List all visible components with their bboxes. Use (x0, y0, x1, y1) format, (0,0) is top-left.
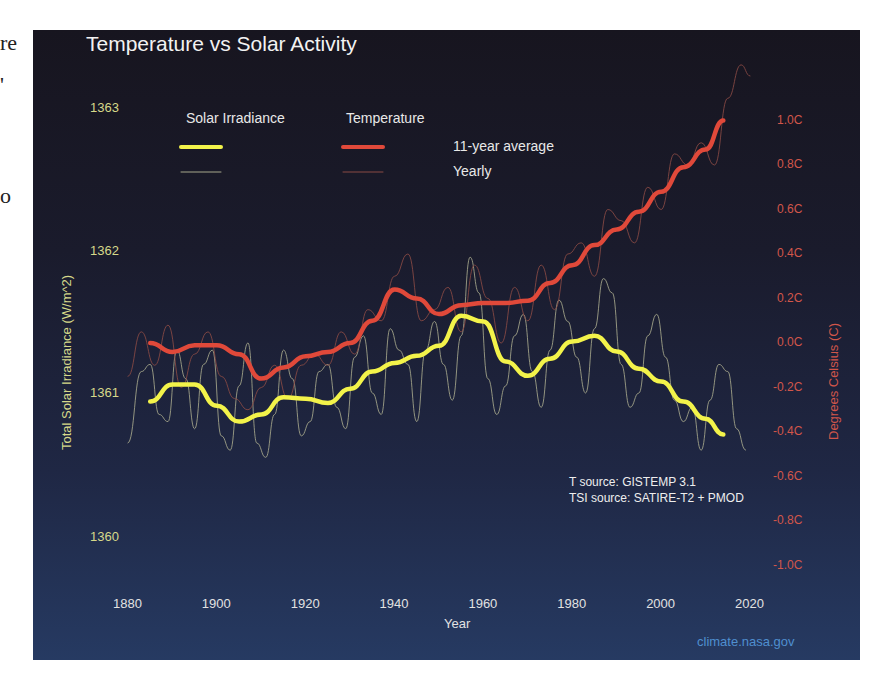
legend-row-average: 11-year average (453, 138, 554, 154)
x-tick: 1980 (557, 596, 586, 611)
y-left-tick: 1362 (90, 243, 119, 258)
x-tick: 1940 (380, 596, 409, 611)
chart-plot-area (33, 30, 860, 660)
x-tick: 1920 (291, 596, 320, 611)
x-tick: 1960 (468, 596, 497, 611)
y-right-tick: 0.0C (777, 335, 802, 349)
text-fragment: ' (0, 72, 4, 98)
y-right-axis-label: Degrees Celsius (C) (826, 323, 841, 440)
y-right-tick: 0.8C (777, 157, 802, 171)
y-right-tick: -0.6C (773, 469, 802, 483)
text-fragment: o (0, 183, 11, 209)
legend-row-yearly: Yearly (453, 163, 491, 179)
y-right-tick: -0.4C (773, 424, 802, 438)
temperature-source: T source: GISTEMP 3.1 (569, 474, 744, 490)
y-right-tick: -0.2C (773, 380, 802, 394)
y-right-tick: 0.4C (777, 246, 802, 260)
y-right-tick: 0.6C (777, 202, 802, 216)
solar-average-line (150, 316, 723, 435)
y-left-tick: 1363 (90, 100, 119, 115)
y-right-tick: -0.8C (773, 513, 802, 527)
y-right-tick: 1.0C (777, 113, 802, 127)
credit-link[interactable]: climate.nasa.gov (697, 634, 795, 649)
y-right-tick: -1.0C (773, 558, 802, 572)
x-tick: 2020 (735, 596, 764, 611)
x-tick: 2000 (646, 596, 675, 611)
solar-yearly-line (128, 257, 746, 457)
x-axis-label: Year (444, 616, 470, 631)
x-tick: 1900 (202, 596, 231, 611)
y-left-tick: 1361 (90, 385, 119, 400)
y-right-tick: 0.2C (777, 291, 802, 305)
y-left-axis-label: Total Solar Irradiance (W/m^2) (59, 275, 74, 450)
x-tick: 1880 (113, 596, 142, 611)
legend-column-solar: Solar Irradiance (186, 110, 285, 126)
chart-title: Temperature vs Solar Activity (86, 32, 357, 56)
source-annotation: T source: GISTEMP 3.1 TSI source: SATIRE… (569, 474, 744, 506)
cropped-page-text: re ' o (0, 0, 33, 684)
temperature-average-line (150, 121, 723, 379)
tsi-source: TSI source: SATIRE-T2 + PMOD (569, 490, 744, 506)
text-fragment: re (0, 30, 17, 56)
y-left-tick: 1360 (90, 529, 119, 544)
chart-figure: Temperature vs Solar Activity Solar Irra… (33, 30, 860, 660)
legend-column-temperature: Temperature (346, 110, 425, 126)
